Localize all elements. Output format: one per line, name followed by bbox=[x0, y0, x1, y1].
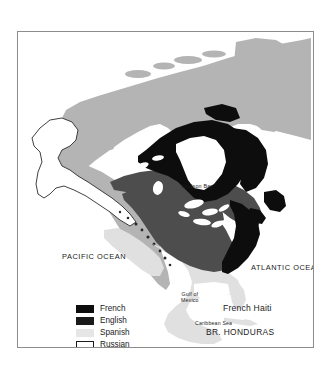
legend-label-english: English bbox=[100, 317, 127, 325]
map-frame: PACIFIC OCEAN ATLANTIC OCEAN Hudson Bay … bbox=[17, 31, 314, 348]
legend-item-spanish: Spanish bbox=[76, 328, 142, 339]
legend-label-spanish: Spanish bbox=[100, 329, 130, 337]
legend-item-french: French bbox=[76, 304, 142, 315]
legend-label-french: French bbox=[100, 305, 125, 313]
legend-swatch-russian bbox=[76, 341, 94, 348]
legend-swatch-english bbox=[76, 317, 94, 325]
map-canvas bbox=[18, 32, 313, 347]
legend-label-russian: Russian bbox=[100, 341, 130, 348]
legend-swatch-french bbox=[76, 305, 94, 313]
legend-item-russian: Russian bbox=[76, 340, 142, 348]
legend-item-english: English bbox=[76, 316, 142, 327]
north-america-map-svg bbox=[18, 32, 313, 347]
map-screenshot: PACIFIC OCEAN ATLANTIC OCEAN Hudson Bay … bbox=[0, 0, 332, 370]
map-legend: French English Spanish Russian Unexplore… bbox=[76, 304, 142, 348]
legend-swatch-spanish bbox=[76, 329, 94, 337]
